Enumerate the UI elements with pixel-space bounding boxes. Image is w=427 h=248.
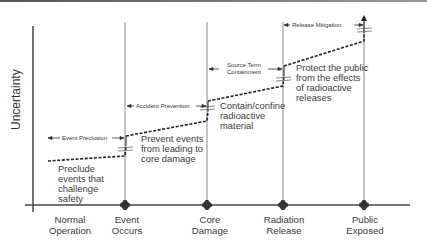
- phase-label-line2: Containment: [224, 69, 264, 76]
- desc-line: core damage: [141, 154, 204, 164]
- x-label-line1: Radiation: [249, 214, 319, 225]
- desc-line: material: [220, 121, 285, 131]
- x-label-event-occurs: Event Occurs: [92, 214, 162, 236]
- phase-label-line1: Source Term: [224, 62, 264, 69]
- x-label-line1: Event: [92, 214, 162, 225]
- phase-label-accident-prevention: Accident Prevention: [136, 103, 189, 110]
- phase-label-source-term-containment: Source Term Containment: [224, 62, 264, 76]
- description-contain: Contain/confine radioactive material: [220, 101, 285, 131]
- marker-core-damage-icon: [202, 200, 212, 210]
- x-label-line1: Public: [330, 214, 400, 225]
- x-label-line2: Occurs: [92, 225, 162, 236]
- x-label-radiation-release: Radiation Release: [249, 214, 319, 236]
- description-prevent: Prevent events from leading to core dama…: [141, 134, 204, 164]
- arrow-up-icon: [361, 15, 367, 21]
- y-axis-label: Uncertainty: [9, 69, 23, 130]
- x-label-line2: Exposed: [330, 225, 400, 236]
- x-label-line2: Damage: [175, 225, 245, 236]
- desc-line: safety: [58, 194, 104, 204]
- marker-public-exposed-icon: [359, 200, 369, 210]
- description-preclude: Preclude events that challenge safety: [58, 164, 104, 204]
- marker-radiation-release-icon: [278, 200, 288, 210]
- phase-label-event-preclusion: Event Preclusion: [62, 135, 107, 142]
- x-label-line2: Release: [249, 225, 319, 236]
- description-protect: Protect the public from the effects of r…: [296, 63, 368, 103]
- x-label-line1: Core: [175, 214, 245, 225]
- x-label-core-damage: Core Damage: [175, 214, 245, 236]
- phase-label-release-mitigation: Release Mitigation: [292, 22, 341, 29]
- marker-event-occurs-icon: [120, 200, 130, 210]
- x-label-public-exposed: Public Exposed: [330, 214, 400, 236]
- uncertainty-diagram: [0, 0, 427, 248]
- desc-line: releases: [296, 93, 368, 103]
